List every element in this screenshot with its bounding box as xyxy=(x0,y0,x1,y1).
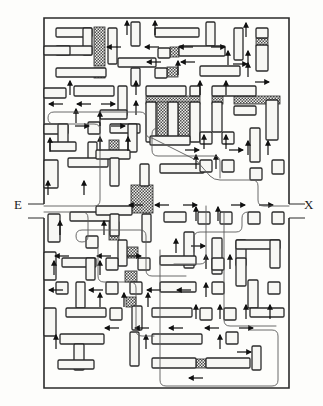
block-r1-j xyxy=(256,45,268,71)
block-r1-d xyxy=(44,46,70,55)
block-r8-f xyxy=(160,164,204,173)
block-r2-c xyxy=(131,22,140,46)
block-r7-b xyxy=(200,132,212,144)
block-r11-h xyxy=(236,258,246,286)
block-r14-a xyxy=(60,334,104,344)
block-r9-g xyxy=(198,212,210,224)
entry-label: E xyxy=(14,198,22,211)
block-r4-d xyxy=(100,110,127,119)
block-r6-c xyxy=(50,142,76,151)
block-r9-d xyxy=(110,214,119,236)
block-r5-e xyxy=(190,102,200,142)
block-r13-c xyxy=(110,308,122,320)
block-r9-f xyxy=(164,212,186,222)
maze-figure: E X xyxy=(0,0,323,406)
block-r14-e xyxy=(152,334,202,344)
block-r9-e xyxy=(142,214,151,242)
block-r10-g xyxy=(270,240,280,268)
block-r14-c xyxy=(58,360,94,369)
block-r8-j xyxy=(272,160,284,174)
block-r8-a xyxy=(44,160,58,188)
block-r3-b xyxy=(200,66,240,76)
block-r13-a xyxy=(44,308,56,336)
block-r1-g xyxy=(206,22,215,46)
block-r5-h xyxy=(234,106,256,115)
block-r5-d xyxy=(190,86,200,96)
hatch-top-mid-b xyxy=(167,67,178,77)
block-r15-c xyxy=(252,346,261,370)
exit-label: X xyxy=(304,198,313,211)
block-r1-e xyxy=(108,28,117,64)
block-r11-g xyxy=(212,258,224,270)
block-r5-i xyxy=(266,100,278,140)
hatch-bottom xyxy=(196,359,206,368)
block-r12-g xyxy=(248,280,258,308)
block-r12-b xyxy=(76,282,85,308)
block-r8-i xyxy=(250,168,262,180)
block-r11-d xyxy=(106,258,118,270)
block-r13-f xyxy=(200,308,212,320)
block-r12-c xyxy=(106,282,118,294)
hatch-top-left xyxy=(94,27,105,66)
block-r4-a xyxy=(44,88,66,98)
block-r13-d xyxy=(132,306,142,330)
block-r1-i xyxy=(256,28,268,38)
block-r12-a xyxy=(56,282,68,294)
block-r4-b xyxy=(74,86,114,96)
block-r15-a xyxy=(152,358,196,368)
block-r8-d xyxy=(110,158,119,186)
hatch-center xyxy=(131,185,153,213)
block-r10-b xyxy=(118,240,127,266)
block-r14-d xyxy=(130,332,139,366)
block-r3-a xyxy=(155,68,167,78)
block-r12-h xyxy=(268,282,280,294)
block-r1-f xyxy=(155,28,199,37)
block-r13-g xyxy=(224,308,236,320)
block-r7-d xyxy=(250,128,260,162)
block-r13-b xyxy=(66,308,106,317)
block-r15-b xyxy=(206,358,250,368)
block-r9-j xyxy=(272,212,284,224)
block-r13-h xyxy=(250,308,284,317)
block-r13-e xyxy=(152,308,192,317)
block-r11-c xyxy=(86,258,95,280)
block-r2-e xyxy=(158,48,170,58)
block-r12-f xyxy=(212,282,224,294)
block-r6-g xyxy=(128,124,137,152)
block-r5-a xyxy=(146,86,186,96)
block-r2-a xyxy=(56,68,106,77)
block-r7-c xyxy=(222,132,234,144)
block-r1-h xyxy=(234,28,243,60)
block-r5-g xyxy=(212,102,222,132)
block-r9-i xyxy=(248,212,260,224)
maze-canvas xyxy=(0,0,323,406)
paper-background xyxy=(0,0,323,406)
hatch-lower-c xyxy=(125,271,137,282)
block-r8-h xyxy=(222,160,234,172)
block-r9-h xyxy=(220,212,232,224)
block-r14-f xyxy=(226,332,238,344)
block-r9-a xyxy=(48,214,60,242)
hatch-top-mid-a xyxy=(170,47,179,57)
block-r8-e xyxy=(140,164,149,186)
block-r5-f xyxy=(212,86,256,96)
block-r11-e xyxy=(138,258,150,270)
